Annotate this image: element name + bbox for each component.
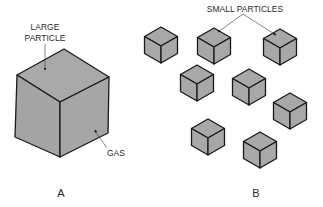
- small-cube: [145, 27, 178, 63]
- small-cube: [274, 93, 307, 129]
- large-label-line1: LARGE: [31, 22, 60, 32]
- small-cubes: [145, 27, 307, 168]
- large-label-line2: PARTICLE: [25, 33, 66, 43]
- small-particles-leader-2: [243, 14, 276, 35]
- small-cube: [264, 29, 297, 65]
- small-cube: [244, 132, 277, 168]
- small-cube: [233, 69, 266, 105]
- particle-diagram: LARGE PARTICLE GAS A SMALL PARTICLES B: [0, 0, 323, 207]
- small-cube: [198, 28, 231, 64]
- small-particles-label: SMALL PARTICLES: [207, 4, 284, 14]
- large-cube: [15, 49, 109, 157]
- small-cube: [181, 65, 214, 101]
- gas-label: GAS: [107, 148, 125, 158]
- panel-b-label: B: [252, 187, 259, 199]
- small-particles-leader: [218, 14, 243, 32]
- small-cube: [192, 119, 225, 155]
- panel-a-label: A: [57, 187, 65, 199]
